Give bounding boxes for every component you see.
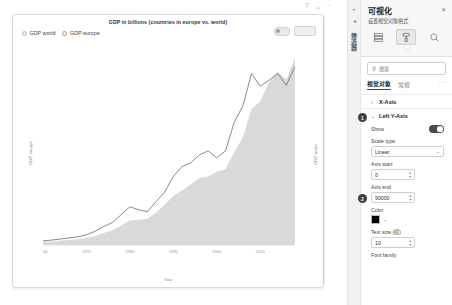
- chevron-down-icon: ⌄: [436, 149, 440, 154]
- focus-mode-icon[interactable]: ⎵: [317, 2, 319, 8]
- axis-start-label: Axis start: [371, 161, 444, 167]
- visualizations-pane: « ◂ 筛选器 可视化 设置视觉对象格式 ✕: [347, 0, 452, 305]
- legend-label: GDP world: [30, 30, 56, 36]
- text-size-field: Text size (磅) 10 ▴▾: [361, 226, 452, 250]
- magnifier-analytics-icon: [429, 32, 440, 43]
- gdp-world-area: [43, 58, 295, 245]
- card-table-icon: [373, 32, 384, 43]
- search-row: ⚲: [361, 57, 452, 79]
- font-family-label: Font family: [371, 252, 444, 258]
- section-label: Left Y-Axis: [379, 113, 408, 119]
- scale-type-field: Scale type Linear ⌄: [361, 136, 452, 159]
- chevron-down-icon[interactable]: ⌄: [383, 217, 387, 222]
- show-toggle[interactable]: [429, 125, 444, 133]
- more-options-icon[interactable]: ···: [326, 2, 332, 8]
- search-icon: ⚲: [372, 66, 376, 72]
- chart-title: GDP in billions (countries in europe vs.…: [13, 19, 323, 25]
- power-bi-report-window: ▽ ⎵ ··· GDP in billions (countries in eu…: [0, 0, 452, 305]
- show-label: Show: [371, 126, 384, 132]
- axis-end-label: Axis end: [371, 184, 444, 190]
- spinner-icon[interactable]: ▴▾: [409, 239, 411, 246]
- analytics-tab[interactable]: [425, 29, 445, 45]
- search-input[interactable]: [379, 66, 441, 72]
- text-size-value: 10: [375, 240, 381, 246]
- build-visual-tab[interactable]: [368, 29, 388, 45]
- pane-rail: « ◂ 筛选器: [348, 0, 361, 305]
- format-pane-scroll[interactable]: ⚲ 视觉对象 常规 ··· › X-Axis: [361, 56, 452, 305]
- scale-type-label: Scale type: [371, 138, 444, 144]
- format-visual-tab[interactable]: [396, 29, 416, 45]
- x-axis-title: Year: [13, 277, 323, 282]
- chevron-down-icon: ⌄: [371, 113, 376, 119]
- section-label: X-Axis: [379, 99, 396, 105]
- color-field: Color ⌄: [361, 205, 452, 226]
- visual-toggle[interactable]: [274, 27, 290, 36]
- svg-text:2000: 2000: [212, 249, 222, 254]
- spinner-icon[interactable]: ▴▾: [409, 194, 411, 201]
- chart-svg: 0K2K4K6K8K10K12K14K16K18K20K 0K9K18K27K3…: [43, 45, 295, 267]
- spinner-icon[interactable]: ▴▾: [409, 171, 411, 178]
- object-tab-strip: 视觉对象 常规 ···: [361, 79, 452, 94]
- search-box[interactable]: ⚲: [367, 62, 446, 75]
- color-swatch[interactable]: [371, 215, 380, 224]
- section-x-axis[interactable]: › X-Axis: [361, 95, 452, 108]
- format-tab-strip: [364, 28, 449, 46]
- filter-icon[interactable]: ▽: [305, 2, 310, 8]
- visualizations-pane-body: 可视化 设置视觉对象格式 ✕: [361, 0, 452, 305]
- more-options-icon[interactable]: ···: [439, 79, 447, 85]
- text-size-input[interactable]: 10 ▴▾: [371, 237, 415, 248]
- color-label: Color: [371, 207, 444, 213]
- axis-end-input[interactable]: 90000 ▴▾: [371, 192, 415, 203]
- show-row: Show: [361, 122, 452, 136]
- tab-general[interactable]: 常规: [398, 80, 410, 89]
- scale-type-value: Linear: [375, 149, 389, 155]
- pane-subtitle: 设置视觉对象格式: [368, 18, 445, 24]
- left-y-axis-title: GDP europe: [28, 141, 33, 165]
- legend-item-gdp-europe[interactable]: GDP europe: [62, 30, 99, 36]
- line-area-chart-visual[interactable]: GDP in billions (countries in europe vs.…: [12, 14, 324, 288]
- svg-text:1990: 1990: [169, 249, 179, 254]
- filled-circle-marker: [22, 31, 27, 36]
- axis-start-field: Axis start 0 ▴▾: [361, 159, 452, 182]
- pane-header: 可视化 设置视觉对象格式 ✕: [361, 0, 452, 24]
- active-tab-caret: [403, 46, 411, 50]
- font-family-field: Font family: [361, 250, 452, 262]
- legend-item-gdp-world[interactable]: GDP world: [22, 30, 55, 36]
- close-icon[interactable]: ✕: [441, 6, 446, 13]
- chevron-right-icon: ›: [371, 99, 376, 105]
- visual-toolbar: [274, 26, 316, 36]
- axis-start-input[interactable]: 0 ▴▾: [371, 169, 415, 180]
- chevron-double-left-icon[interactable]: «: [352, 6, 355, 13]
- svg-text:1970: 1970: [82, 249, 92, 254]
- filter-pane-icon[interactable]: ◂: [353, 18, 356, 25]
- axis-end-value: 90000: [375, 195, 389, 201]
- visual-header-icons: ▽ ⎵ ···: [305, 2, 332, 8]
- chart-legend: GDP world GDP europe: [22, 30, 100, 36]
- x-axis-ticks: 196019701980199020002010: [43, 249, 266, 254]
- report-canvas: ▽ ⎵ ··· GDP in billions (countries in eu…: [0, 0, 348, 305]
- text-size-label: Text size (磅): [371, 228, 444, 235]
- scale-type-select[interactable]: Linear ⌄: [371, 146, 444, 157]
- svg-text:1960: 1960: [43, 249, 48, 254]
- open-circle-marker: [62, 31, 67, 36]
- focus-button[interactable]: [294, 26, 316, 36]
- svg-text:1980: 1980: [125, 249, 135, 254]
- plot-area: 0K2K4K6K8K10K12K14K16K18K20K 0K9K18K27K3…: [43, 45, 295, 267]
- callout-badge-1: 1: [358, 113, 367, 122]
- svg-text:2010: 2010: [256, 249, 266, 254]
- axis-start-value: 0: [375, 172, 378, 178]
- section-left-y-axis[interactable]: 1 ⌄ Left Y-Axis: [361, 109, 452, 122]
- paint-roller-icon: [401, 32, 412, 43]
- axis-end-field: 2 Axis end 90000 ▴▾: [361, 182, 452, 205]
- callout-badge-2: 2: [358, 194, 367, 203]
- right-y-axis-title: GDP world: [313, 144, 318, 165]
- legend-label: GDP europe: [70, 30, 100, 36]
- tab-visual[interactable]: 视觉对象: [367, 79, 391, 90]
- pane-title: 可视化: [368, 7, 445, 16]
- filters-pane-label[interactable]: 筛选器: [350, 33, 359, 51]
